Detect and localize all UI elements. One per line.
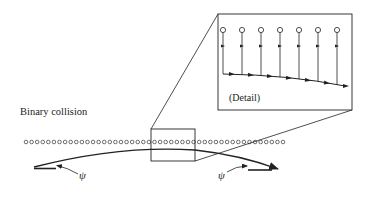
atom	[153, 140, 157, 144]
atom	[242, 140, 246, 144]
atom	[164, 140, 168, 144]
atom	[24, 140, 28, 144]
atom	[74, 140, 78, 144]
atom	[69, 140, 73, 144]
atom	[86, 140, 90, 144]
atom	[264, 140, 268, 144]
atom	[58, 140, 62, 144]
atom	[237, 140, 241, 144]
diagram-title: Binary collision	[20, 106, 87, 117]
angle-arrow-left	[57, 166, 78, 175]
atom	[35, 140, 39, 144]
atom	[158, 140, 162, 144]
atom	[197, 140, 201, 144]
atom	[47, 140, 51, 144]
atom	[169, 140, 173, 144]
atom	[41, 140, 45, 144]
angle-label-left: ψ	[79, 169, 86, 181]
diagram-graphic	[0, 0, 371, 208]
atom	[30, 140, 34, 144]
atom	[175, 140, 179, 144]
atom	[130, 140, 134, 144]
atom	[281, 140, 285, 144]
binary-collision-diagram: Binary collision (Detail) ψ ψ	[0, 0, 371, 208]
atom	[181, 140, 185, 144]
atom	[108, 140, 112, 144]
atom	[102, 140, 106, 144]
atom	[114, 140, 118, 144]
atom	[136, 140, 140, 144]
atom	[203, 140, 207, 144]
atom	[220, 140, 224, 144]
angle-arrow-right	[227, 166, 247, 172]
atom	[63, 140, 67, 144]
angle-label-right: ψ	[218, 169, 225, 181]
atom	[209, 140, 213, 144]
zoom-region-box	[151, 129, 195, 161]
connector-line-top	[151, 14, 218, 129]
atom	[270, 140, 274, 144]
atom	[52, 140, 56, 144]
atom	[97, 140, 101, 144]
atom	[142, 140, 146, 144]
atom	[125, 140, 129, 144]
atom	[214, 140, 218, 144]
atom-row	[24, 140, 285, 144]
atom	[80, 140, 84, 144]
atom	[225, 140, 229, 144]
detail-label: (Detail)	[229, 92, 260, 103]
atom	[259, 140, 263, 144]
atom	[147, 140, 151, 144]
atom	[186, 140, 190, 144]
atom	[119, 140, 123, 144]
atom	[231, 140, 235, 144]
atom	[91, 140, 95, 144]
atom	[276, 140, 280, 144]
